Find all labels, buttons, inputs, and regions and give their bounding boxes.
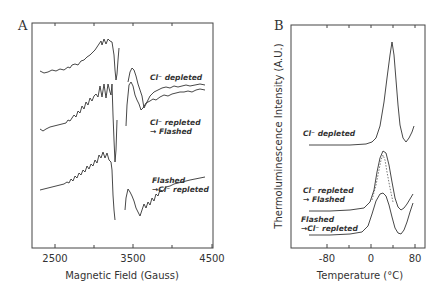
panel-b-label-flashed: → Flashed [303,195,346,204]
panel-b-label-flashed-2: Flashed [301,215,335,224]
panel-a-tick-4500: 4500 [199,253,224,264]
panel-b-tick-0: 0 [368,253,374,264]
panel-b-xlabel: Temperature (°C) [316,270,403,281]
panel-b-label-repleted-2: →Cl⁻ repleted [301,224,358,233]
panel-a: A 2500 3500 4500 Magnetic Field (Gauss) … [17,18,225,281]
panel-a-label-repleted: Cl⁻ repleted [150,118,201,127]
panel-a-tick-3500: 3500 [120,253,145,264]
panel-a-curve-cl-depleted [40,39,119,80]
figure: A 2500 3500 4500 Magnetic Field (Gauss) … [0,0,448,297]
panel-a-label-flashed: → Flashed [150,127,193,136]
panel-a-xlabel: Magnetic Field (Gauss) [65,270,179,281]
panel-b-letter: B [274,18,284,33]
panel-a-tick-2500: 2500 [42,253,67,264]
panel-a-bottom-ticks [55,244,212,248]
panel-b-tick-80: 80 [409,253,422,264]
panel-b: B -80 0 80 Temperature (°C) Thermolumine… [273,18,425,281]
panel-b-bottom-ticks [327,244,415,248]
panel-a-label-flashed-2: Flashed [152,176,186,185]
panel-b-label-repleted: Cl⁻ repleted [303,186,354,195]
panel-a-label-repleted-2: →Cl⁻ repleted [152,185,209,194]
panel-b-label-cl-depleted: Cl⁻ depleted [303,129,356,138]
panel-b-curve-repleted-flashed-dashed [372,155,393,202]
panel-a-letter: A [17,18,28,33]
panel-b-tick-neg80: -80 [319,253,335,264]
panel-a-label-cl-depleted: Cl⁻ depleted [150,73,203,82]
panel-b-ylabel: Thermoluminescence Intensity (A.U.) [273,43,284,229]
